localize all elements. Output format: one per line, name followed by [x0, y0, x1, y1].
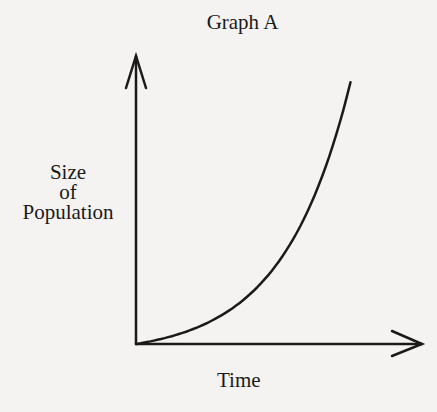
- chart-plot: [0, 0, 437, 412]
- population-curve: [136, 82, 351, 344]
